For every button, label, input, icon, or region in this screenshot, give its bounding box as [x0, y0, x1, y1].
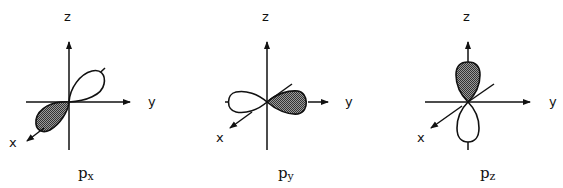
z-axis-label: z [262, 10, 269, 23]
orbital-diagram [0, 0, 563, 188]
orbital-subscript: y [288, 170, 294, 183]
orbital-label-px: px [78, 166, 94, 182]
x-axis-label: x [9, 136, 17, 149]
orbital-letter: p [78, 164, 88, 182]
x-axis [230, 112, 252, 128]
z-axis-label: z [64, 10, 71, 23]
lobe-shaded [267, 91, 306, 114]
y-axis-label: y [345, 95, 353, 108]
panel-py [225, 42, 328, 150]
lobe-unshaded [229, 91, 268, 112]
orbital-letter: p [480, 164, 490, 182]
orbital-label-pz: pz [480, 166, 495, 182]
x-axis [27, 128, 44, 141]
panel-px [26, 42, 130, 150]
x-axis-label: x [417, 131, 425, 144]
x-axis-label: x [216, 131, 224, 144]
panel-pz [425, 42, 530, 150]
y-axis-label: y [148, 95, 156, 108]
lobe-unshaded [69, 71, 104, 102]
orbital-subscript: z [490, 170, 496, 183]
orbital-label-py: py [278, 166, 294, 182]
orbital-subscript: x [88, 170, 94, 183]
lobe-shaded [36, 102, 69, 132]
z-axis-label: z [463, 10, 470, 23]
y-axis-label: y [549, 95, 557, 108]
orbital-letter: p [278, 164, 288, 182]
